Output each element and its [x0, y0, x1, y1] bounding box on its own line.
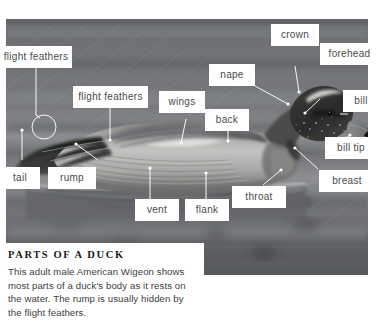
label-rump: rump [48, 167, 96, 189]
label-text: bill tip [337, 143, 365, 153]
label-text: nape [220, 70, 243, 80]
label-forehead: forehead [320, 43, 379, 65]
label-text: vent [147, 205, 167, 215]
label-text: breast [332, 176, 362, 186]
label-text: back [216, 115, 238, 125]
label-breast: breast [319, 170, 375, 192]
label-flank: flank [185, 199, 229, 221]
label-text: crown [281, 30, 309, 40]
label-text: forehead [329, 49, 371, 59]
label-flight-feathers-left: flight feathers [0, 46, 72, 68]
label-tail: tail [0, 167, 40, 189]
label-throat: throat [232, 186, 286, 208]
label-wings: wings [159, 91, 205, 113]
caption-body: This adult male American Wigeon shows mo… [8, 265, 198, 319]
label-flight-feathers-mid: flight feathers [73, 86, 148, 108]
caption-title: PARTS OF A DUCK [8, 249, 125, 260]
label-text: rump [60, 173, 84, 183]
label-text: wings [168, 97, 195, 107]
label-text: flank [196, 205, 219, 215]
label-crown: crown [271, 24, 319, 46]
label-back: back [205, 109, 249, 131]
label-text: bill [354, 96, 367, 106]
label-text: flight feathers [78, 92, 143, 102]
label-nape: nape [209, 64, 255, 86]
label-text: tail [13, 173, 27, 183]
label-bill: bill [343, 90, 379, 112]
label-bill-tip: bill tip [325, 137, 377, 159]
label-text: flight feathers [4, 52, 69, 62]
label-text: throat [245, 192, 272, 202]
caption-block: PARTS OF A DUCK This adult male American… [0, 243, 204, 324]
duck-anatomy-figure: flight feathers flight feathers wings na… [0, 0, 383, 324]
label-vent: vent [135, 199, 179, 221]
